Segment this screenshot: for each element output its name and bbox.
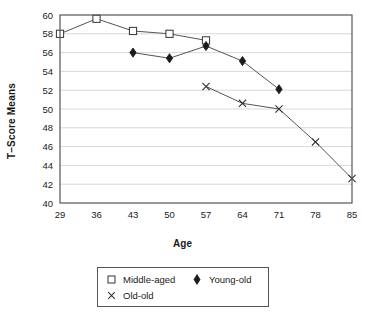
data-point-filled-diamond (166, 54, 172, 63)
y-tick-label: 56 (42, 47, 53, 58)
series-markers-group (56, 15, 355, 182)
x-tick-label: 85 (347, 209, 358, 220)
filled-diamond-icon (190, 273, 204, 285)
data-point-cross-x (202, 83, 209, 90)
y-tick-label: 52 (42, 85, 53, 96)
data-point-open-square (166, 30, 173, 37)
legend-item-old-old: Old-old (104, 289, 154, 301)
data-point-filled-diamond (276, 85, 282, 94)
x-tick-label: 71 (274, 209, 285, 220)
y-tick-label: 60 (42, 10, 53, 21)
x-tick-label: 50 (164, 209, 175, 220)
x-tick-label: 57 (201, 209, 212, 220)
data-point-cross-x (312, 138, 319, 145)
chart-legend: Middle-aged Old-old Young-old (97, 267, 269, 307)
plot-area: 4042444648505254565860 29364350576471788… (0, 0, 365, 236)
data-point-filled-diamond (130, 48, 136, 57)
x-tick-label: 64 (237, 209, 248, 220)
x-tick-label: 36 (91, 209, 102, 220)
legend-item-young-old: Young-old (190, 273, 251, 285)
open-square-icon (104, 273, 118, 285)
x-tick-labels-group: 293643505764717885 (55, 209, 358, 220)
y-tick-labels-group: 4042444648505254565860 (42, 10, 53, 209)
y-tick-label: 42 (42, 179, 53, 190)
x-tick-label: 29 (55, 209, 66, 220)
legend-label: Old-old (123, 290, 154, 301)
legend-item-middle-aged: Middle-aged (104, 273, 175, 285)
chart-figure: T–Score Means 4042444648505254565860 293… (0, 0, 365, 314)
x-tick-label: 43 (128, 209, 139, 220)
x-axis-title: Age (0, 238, 365, 249)
legend-label: Young-old (209, 274, 251, 285)
y-tick-label: 50 (42, 104, 53, 115)
data-point-filled-diamond (239, 56, 245, 65)
y-tick-label: 54 (42, 66, 53, 77)
y-tick-label: 48 (42, 122, 53, 133)
legend-label: Middle-aged (123, 274, 175, 285)
y-tick-label: 40 (42, 198, 53, 209)
gridlines-group (60, 34, 352, 184)
y-tick-label: 44 (42, 160, 53, 171)
data-point-open-square (93, 15, 100, 22)
cross-x-icon (104, 289, 118, 301)
y-tick-label: 58 (42, 28, 53, 39)
series-line (206, 86, 352, 178)
x-tick-label: 78 (310, 209, 321, 220)
y-tick-label: 46 (42, 141, 53, 152)
data-point-open-square (129, 27, 136, 34)
